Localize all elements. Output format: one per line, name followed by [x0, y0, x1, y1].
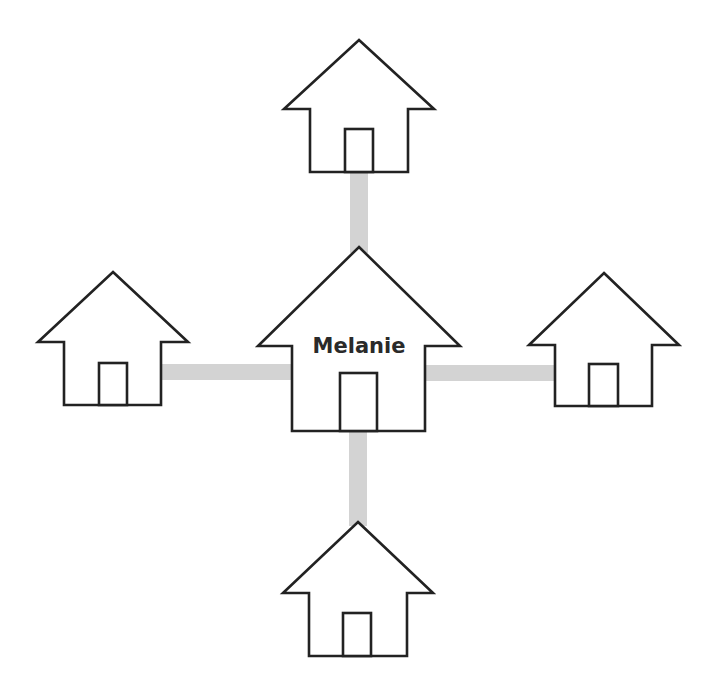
house-right-door	[589, 364, 618, 406]
house-bottom-door	[343, 613, 371, 656]
house-network-diagram: Melanie	[0, 0, 714, 700]
connector-left	[160, 364, 294, 380]
connector-right	[424, 365, 557, 381]
house-top-door	[345, 129, 373, 172]
connector-bottom	[349, 430, 367, 526]
connector-top	[350, 171, 368, 253]
center-house-label: Melanie	[313, 334, 406, 358]
house-bottom	[283, 522, 433, 656]
house-right	[529, 273, 679, 406]
house-top	[284, 40, 434, 172]
house-left	[38, 272, 188, 405]
house-left-door	[99, 363, 127, 405]
house-center-door	[340, 373, 377, 431]
house-center: Melanie	[258, 247, 460, 431]
